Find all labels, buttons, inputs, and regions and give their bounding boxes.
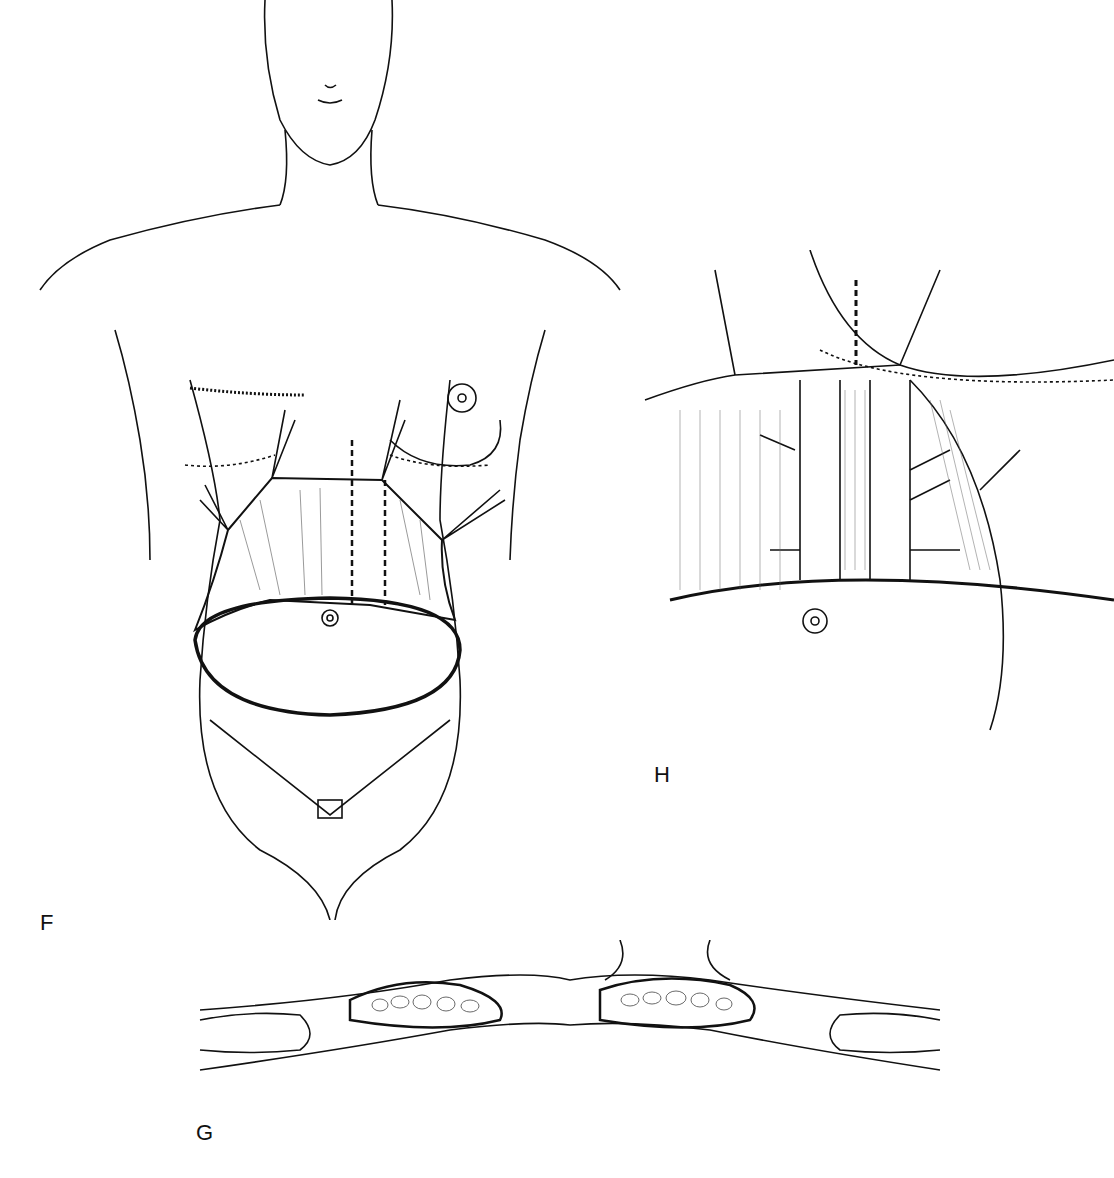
torso-illustration <box>0 0 640 920</box>
panel-g-cross-section: G <box>190 940 950 1140</box>
closeup-illustration <box>640 250 1114 790</box>
panel-f-torso: F <box>0 0 640 920</box>
cross-section-illustration <box>190 940 950 1140</box>
panel-h-closeup: H <box>640 250 1114 790</box>
panel-label-h: H <box>654 762 670 788</box>
panel-label-g: G <box>196 1120 213 1146</box>
panel-label-f: F <box>40 910 53 936</box>
